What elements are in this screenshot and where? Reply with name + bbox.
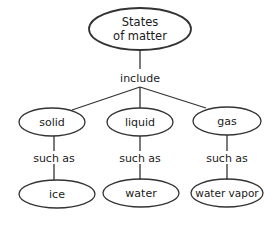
node-solid: solid [39, 116, 65, 129]
root-node: States of matter [113, 15, 167, 43]
root-node-line1: States [113, 15, 167, 29]
node-water-vapor: water vapor [195, 187, 258, 200]
node-gas: gas [217, 115, 236, 128]
link-label-liquid: such as [119, 152, 161, 165]
link-label-solid: such as [33, 152, 75, 165]
node-ice: ice [49, 188, 65, 201]
root-node-line2: of matter [113, 29, 167, 43]
node-liquid: liquid [125, 116, 155, 129]
node-water: water [125, 187, 156, 200]
root-link-label: include [120, 72, 160, 85]
link-label-gas: such as [206, 152, 248, 165]
